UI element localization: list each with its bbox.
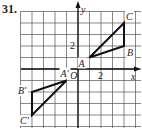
x-axis-label: x — [130, 71, 136, 82]
grid-lines — [21, 12, 142, 129]
y-axis-arrow-icon — [76, 1, 81, 8]
triangle-abc-prime — [32, 81, 67, 116]
vertex-label: C — [126, 11, 133, 22]
vertex-label: C′ — [20, 115, 30, 126]
coordinate-plane: x y O 2 2 ABCA′B′C′ — [0, 0, 141, 128]
vertex-label: A — [78, 58, 86, 69]
x-tick-label-2: 2 — [98, 70, 103, 81]
origin-label: O — [70, 70, 77, 81]
y-axis-label: y — [80, 4, 86, 15]
y-tick-label-2: 2 — [70, 40, 75, 51]
triangle-abc — [90, 23, 125, 58]
vertex-label: A′ — [60, 68, 70, 79]
vertex-label: B — [127, 47, 133, 58]
vertex-label: B′ — [18, 85, 27, 96]
